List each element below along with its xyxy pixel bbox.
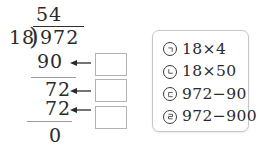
step-product-1: 90 (37, 52, 63, 71)
subtraction-line-2 (27, 121, 72, 122)
option-expression: 972−90 (182, 87, 247, 103)
circled-digeut-icon (163, 87, 177, 101)
option-giyeok: 18×4 (163, 38, 248, 61)
answer-box-1[interactable] (95, 53, 127, 76)
option-expression: 18×4 (182, 42, 226, 58)
option-rieul: 972−900 (163, 106, 248, 129)
option-expression: 18×50 (182, 64, 236, 80)
answer-box-2[interactable] (95, 79, 127, 102)
answer-box-3[interactable] (95, 106, 127, 129)
remainder: 0 (49, 126, 62, 145)
dividend: 972 (40, 28, 79, 47)
circled-giyeok-icon (163, 42, 177, 56)
circled-nieun-icon (163, 65, 177, 79)
arrow-left-icon (70, 86, 92, 96)
arrow-left-icon (70, 105, 92, 115)
division-bracket-icon: ) (29, 24, 39, 49)
step-product-2: 72 (45, 99, 71, 118)
option-expression: 972−900 (182, 109, 257, 125)
arrow-left-icon (70, 58, 92, 68)
option-nieun: 18×50 (163, 61, 248, 84)
circled-rieul-icon (163, 110, 177, 124)
option-digeut: 972−90 (163, 83, 248, 106)
quotient: 54 (36, 5, 62, 24)
options-panel: 18×4 18×50 972−90 972−900 (152, 30, 249, 132)
